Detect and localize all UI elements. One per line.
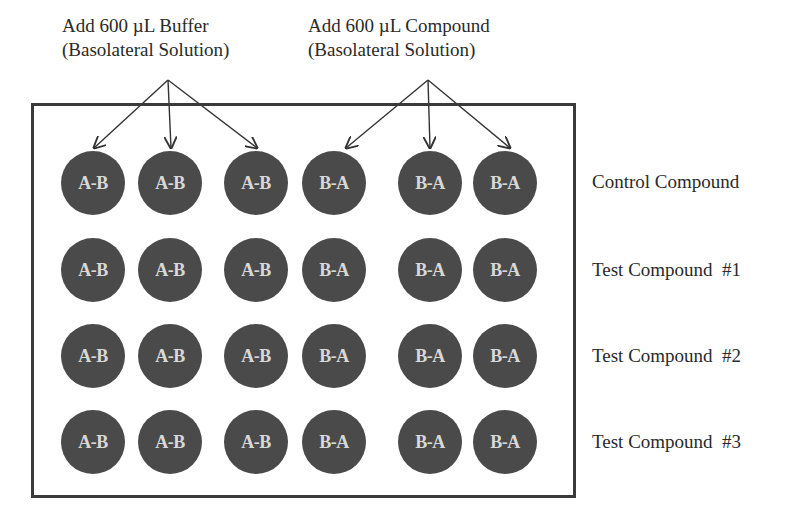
well: B-A [302, 410, 366, 474]
well: A-B [224, 410, 288, 474]
well: A-B [61, 410, 125, 474]
row-label-test-2: Test Compound #2 [592, 345, 741, 367]
well: A-B [61, 151, 125, 215]
well: B-A [302, 151, 366, 215]
row-label-control: Control Compound [592, 171, 739, 193]
well: A-B [224, 324, 288, 388]
well: A-B [138, 324, 202, 388]
well: A-B [138, 238, 202, 302]
well: B-A [398, 410, 462, 474]
row-label-test-1: Test Compound #1 [592, 259, 741, 281]
row-label-test-3: Test Compound #3 [592, 431, 741, 453]
well: B-A [473, 151, 537, 215]
well: A-B [224, 151, 288, 215]
well: A-B [138, 151, 202, 215]
well: B-A [473, 238, 537, 302]
well: A-B [138, 410, 202, 474]
well: B-A [302, 324, 366, 388]
well: B-A [473, 324, 537, 388]
well: B-A [302, 238, 366, 302]
well: B-A [398, 324, 462, 388]
well: B-A [398, 238, 462, 302]
well: B-A [398, 151, 462, 215]
well: A-B [224, 238, 288, 302]
well: B-A [473, 410, 537, 474]
well: A-B [61, 324, 125, 388]
well: A-B [61, 238, 125, 302]
